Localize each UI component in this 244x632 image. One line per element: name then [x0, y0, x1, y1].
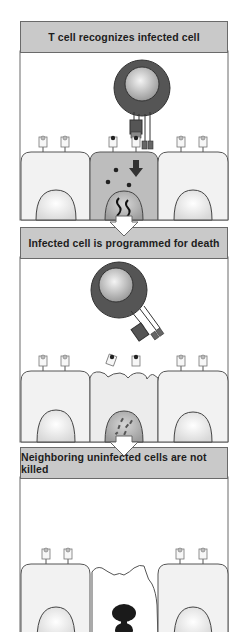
- epithelial-cells-row: [21, 371, 228, 442]
- panel-2-drawing: [20, 257, 228, 442]
- panel-1-title: T cell recognizes infected cell: [20, 21, 228, 53]
- panel-1-drawing: [20, 51, 228, 220]
- panel-3-title: Neighboring uninfected cells are not kil…: [20, 447, 228, 479]
- epithelial-cells-row: [21, 152, 228, 220]
- epithelial-cells-row: [21, 564, 228, 632]
- panel-2-title: Infected cell is programmed for death: [20, 227, 228, 259]
- diagram-canvas: [0, 0, 244, 632]
- panel-3-drawing: [20, 477, 228, 632]
